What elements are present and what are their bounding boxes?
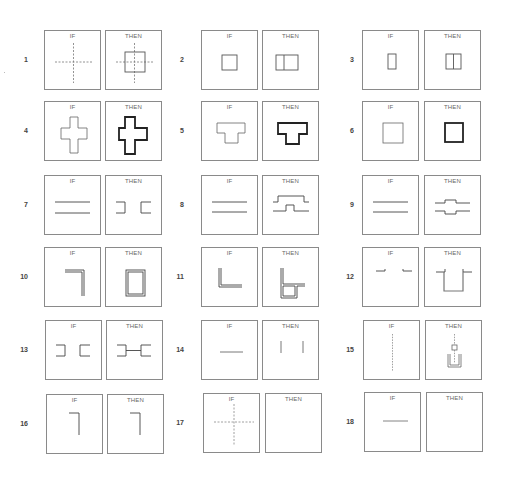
horizontal-line-icon [202,321,259,381]
facing-brackets-icon [106,176,163,236]
if-panel: IF [363,320,420,380]
thick-cross-icon [106,102,163,162]
split-rectangle-icon [425,31,482,91]
corner-line-icon [47,395,104,455]
tall-rectangle-icon [363,31,420,91]
rule-number: 4 [14,127,28,134]
if-panel: IF [203,393,260,453]
then-panel: THEN [424,175,481,235]
rule-12: 12 IF THEN [340,247,509,309]
if-panel: IF [201,320,258,380]
stray-mark [4,72,5,73]
axis-with-square-and-u-icon [426,321,483,381]
hooks-with-channel-icon [425,248,482,308]
then-panel: THEN [262,247,319,307]
rule-8: 8 IF THEN [170,175,340,237]
then-panel: THEN [105,175,162,235]
if-panel: IF [44,101,101,161]
rule-3: 3 IF THEN [340,30,509,92]
then-panel: THEN [105,101,162,161]
if-panel: IF [362,101,419,161]
if-panel: IF [201,30,258,90]
thin-cross-icon [45,102,102,162]
small-square-icon [202,31,259,91]
square-on-axes-icon [106,31,163,91]
thin-square-icon [363,102,420,162]
rule-7: 7 IF THEN [14,175,184,237]
parallel-lines-icon [202,176,259,236]
then-panel: THEN [105,30,162,90]
if-panel: IF [44,30,101,90]
stepped-lines-icon [263,176,320,236]
parallel-lines-icon [45,176,102,236]
rule-9: 9 IF THEN [340,175,509,237]
if-panel: IF [201,247,258,307]
rule-17: 17 IF THEN [170,393,340,455]
rule-number: 15 [340,346,354,353]
rule-number: 11 [170,273,184,280]
if-panel: IF [45,320,102,380]
rule-1: 1 IF THEN [14,30,184,92]
rule-number: 9 [340,201,354,208]
rule-number: 14 [170,346,184,353]
rule-18: 18 IF THEN [340,392,509,454]
double-corner-icon [45,248,102,308]
rule-number: 7 [14,201,28,208]
l-shape-with-box-icon [263,248,320,308]
rule-4: 4 IF THEN [14,101,184,163]
rule-number: 13 [14,346,28,353]
horizontal-line-icon [365,393,422,453]
then-panel: THEN [105,247,162,307]
then-panel: THEN [426,392,483,452]
then-panel: THEN [262,320,319,380]
then-panel: THEN [262,101,319,161]
rule-number: 1 [14,56,28,63]
if-panel: IF [44,247,101,307]
rule-5: 5 IF THEN [170,101,340,163]
short-hooks-icon [363,248,420,308]
joined-brackets-icon [107,321,164,381]
split-square-icon [263,31,320,91]
rule-16: 16 IF THEN [14,394,184,456]
then-panel: THEN [424,101,481,161]
then-panel: THEN [424,30,481,90]
if-panel: IF [362,175,419,235]
then-panel: THEN [262,30,319,90]
double-l-shape-icon [202,248,259,308]
two-vertical-lines-icon [263,321,320,381]
parallel-lines-icon [363,176,420,236]
then-panel: THEN [265,393,322,453]
rule-15: 15 IF THEN [340,320,509,382]
rule-10: 10 IF THEN [14,247,184,309]
double-rectangle-icon [106,248,163,308]
if-panel: IF [44,175,101,235]
rule-14: 14 IF THEN [170,320,340,382]
facing-brackets-icon [46,321,103,381]
if-panel: IF [201,175,258,235]
rule-2: 2 IF THEN [170,30,340,92]
thick-square-icon [425,102,482,162]
if-panel: IF [201,101,258,161]
then-label: THEN [266,396,321,402]
rule-number: 12 [340,273,354,280]
then-label: THEN [427,395,482,401]
if-panel: IF [364,392,421,452]
rule-number: 8 [170,201,184,208]
then-panel: THEN [425,320,482,380]
rule-6: 6 IF THEN [340,101,509,163]
then-panel: THEN [107,394,164,454]
rule-number: 17 [170,419,184,426]
rule-number: 18 [340,418,354,425]
thick-t-shape-icon [263,102,320,162]
then-panel: THEN [262,175,319,235]
rule-number: 3 [340,56,354,63]
if-panel: IF [46,394,103,454]
then-panel: THEN [424,247,481,307]
bulging-lines-icon [425,176,482,236]
rule-number: 10 [14,273,28,280]
dashed-vertical-axis-icon [364,321,421,381]
dashed-cross-axes-icon [204,394,261,454]
rule-11: 11 IF THEN [170,247,340,309]
if-panel: IF [362,247,419,307]
rule-number: 5 [170,127,184,134]
